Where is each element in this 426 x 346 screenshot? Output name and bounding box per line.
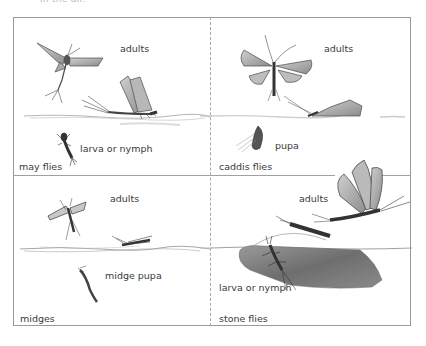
label-midge-pupa: midge pupa xyxy=(105,270,162,281)
horizontal-divider-left xyxy=(13,175,335,176)
vertical-divider xyxy=(210,17,211,326)
label-pupa: pupa xyxy=(275,140,299,151)
diagram-frame xyxy=(13,17,411,326)
panel-title: may flies xyxy=(19,161,62,172)
label-adults: adults xyxy=(120,43,149,54)
label-adults: adults xyxy=(110,193,139,204)
panel-title: caddis flies xyxy=(219,161,272,172)
horizontal-divider-right xyxy=(379,175,411,176)
label-adults: adults xyxy=(324,43,353,54)
label-larva-or-nymph: larva or nymph xyxy=(80,143,153,154)
label-larva-or-nymph: larva or nymph xyxy=(219,282,292,293)
panel-title: midges xyxy=(20,313,55,324)
caption-fragment: in the air. xyxy=(40,0,86,4)
label-adults: adults xyxy=(299,193,328,204)
panel-title: stone flies xyxy=(219,313,268,324)
